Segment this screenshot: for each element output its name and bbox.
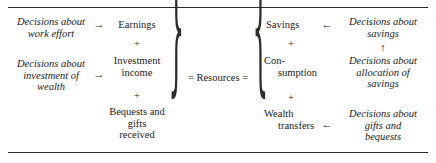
source-investment-income-line1: Investment	[106, 55, 168, 67]
arrow-up-allocation-icon: ↑	[336, 42, 430, 53]
source-bequests-gifts-line3: received	[100, 129, 174, 141]
source-bequests-gifts-line2: gifts	[100, 118, 174, 130]
resource-flow-diagram: Decisions about work effort Decisions ab…	[0, 0, 436, 163]
left-decision-investment-wealth-line3: wealth	[8, 81, 94, 93]
left-decision-work-effort-line1: Decisions about	[8, 16, 94, 28]
arrow-left-gifts-bequests-icon: ←	[320, 119, 334, 130]
use-operator-plus-2: +	[266, 92, 316, 103]
use-consumption: Con- sumption	[264, 55, 334, 78]
right-decision-allocation-savings-line2: allocation of	[336, 67, 430, 79]
arrow-right-investment-icon: →	[92, 69, 106, 80]
source-investment-income-line2: income	[106, 67, 168, 79]
right-decision-gifts-bequests-line1: Decisions about	[336, 108, 430, 120]
source-earnings: Earnings	[106, 19, 168, 31]
source-operator-plus-2: +	[106, 90, 168, 101]
source-operator-plus-1: +	[106, 38, 168, 49]
left-decision-work-effort: Decisions about work effort	[8, 16, 94, 39]
source-earnings-line1: Earnings	[106, 19, 168, 31]
left-decision-investment-wealth-line2: investment of	[8, 70, 94, 82]
right-decision-allocation-savings-line3: savings	[336, 78, 430, 90]
left-decision-investment-wealth: Decisions about investment of wealth	[8, 58, 94, 93]
use-consumption-line2: sumption	[264, 67, 334, 79]
right-decision-savings-line2: savings	[336, 28, 430, 40]
arrow-left-savings-icon: ←	[320, 19, 334, 30]
right-decision-allocation-savings: Decisions about allocation of savings	[336, 55, 430, 90]
right-decision-allocation-savings-line1: Decisions about	[336, 55, 430, 67]
use-consumption-line1: Con-	[264, 55, 334, 67]
resources-equation: = Resources =	[183, 72, 253, 83]
left-decision-work-effort-line2: work effort	[8, 28, 94, 40]
source-investment-income: Investment income	[106, 55, 168, 78]
bottom-horizontal-rule	[8, 152, 428, 153]
arrow-right-work-effort-icon: →	[92, 19, 106, 30]
use-operator-plus-1: +	[266, 38, 316, 49]
source-bequests-gifts: Bequests and gifts received	[100, 106, 174, 141]
source-bequests-gifts-line1: Bequests and	[100, 106, 174, 118]
right-decision-savings-line1: Decisions about	[336, 16, 430, 28]
right-decision-gifts-bequests-line2: gifts and	[336, 120, 430, 132]
right-decision-gifts-bequests-line3: bequests	[336, 131, 430, 143]
top-horizontal-rule	[8, 7, 428, 8]
right-decision-savings: Decisions about savings	[336, 16, 430, 39]
left-decision-investment-wealth-line1: Decisions about	[8, 58, 94, 70]
closing-brace-sources: }	[168, 0, 184, 97]
right-decision-gifts-bequests: Decisions about gifts and bequests	[336, 108, 430, 143]
